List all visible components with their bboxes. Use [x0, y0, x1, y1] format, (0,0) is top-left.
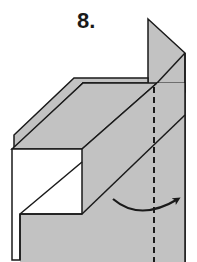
fold-illustration: [0, 0, 197, 262]
origami-diagram: 8.: [0, 0, 197, 262]
